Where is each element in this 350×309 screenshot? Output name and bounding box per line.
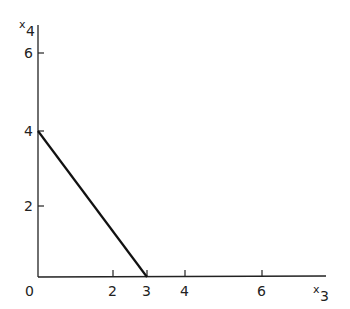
svg-text:x: x	[19, 18, 26, 31]
x-tick-label: 6	[257, 283, 266, 299]
y-ticks: 2 4 6	[24, 45, 44, 214]
y-tick-label: 2	[24, 198, 33, 214]
x-axis-label: x 3	[313, 283, 329, 304]
chart: 2 4 6 2 3 4 6 0 x 4 x 3	[0, 0, 350, 309]
y-axis-label: x 4	[19, 18, 35, 39]
x-tick-label: 3	[142, 283, 151, 299]
x-tick-label: 4	[180, 283, 189, 299]
constraint-line	[38, 131, 147, 277]
x-ticks: 2 3 4 6	[108, 270, 266, 299]
y-tick-label: 6	[24, 45, 33, 61]
svg-text:x: x	[313, 283, 320, 296]
svg-text:4: 4	[26, 23, 35, 39]
y-tick-label: 4	[24, 123, 33, 139]
x-axis	[38, 276, 326, 277]
x-tick-label: 2	[108, 283, 117, 299]
origin-label: 0	[25, 283, 34, 299]
svg-text:3: 3	[320, 288, 329, 304]
